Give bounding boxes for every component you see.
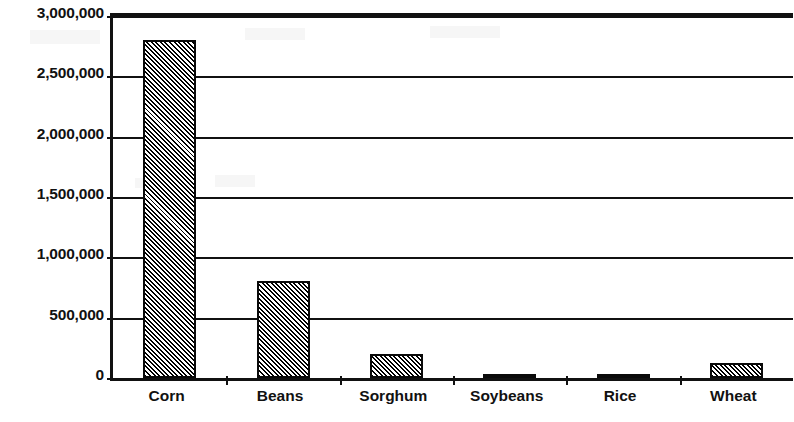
x-axis-tick-label: Rice bbox=[604, 388, 637, 404]
x-axis-tick-label: Soybeans bbox=[470, 388, 543, 404]
bar bbox=[483, 374, 536, 378]
y-axis-tick-label: 2,000,000 bbox=[4, 126, 104, 142]
y-axis-tickmark bbox=[107, 76, 113, 78]
y-axis-tick-labels: 0500,0001,000,0001,500,0002,000,0002,500… bbox=[0, 0, 104, 422]
y-axis-tickmark bbox=[107, 378, 113, 380]
x-axis-tickmark bbox=[226, 376, 228, 385]
gridline bbox=[113, 197, 793, 199]
y-axis-tick-label: 1,500,000 bbox=[4, 186, 104, 202]
gridline bbox=[113, 137, 793, 139]
x-axis-tickmark bbox=[453, 376, 455, 385]
y-axis-tickmark bbox=[107, 257, 113, 259]
x-axis-category-labels: CornBeansSorghumSoybeansRiceWheat bbox=[110, 388, 794, 418]
y-axis-tick-label: 3,000,000 bbox=[4, 5, 104, 21]
y-axis-tick-label: 0 bbox=[4, 367, 104, 383]
gridline bbox=[113, 16, 793, 18]
y-axis-tick-label: 1,000,000 bbox=[4, 247, 104, 263]
gridline bbox=[113, 257, 793, 259]
x-axis-tick-label: Sorghum bbox=[359, 388, 427, 404]
bar bbox=[257, 281, 310, 378]
bar bbox=[143, 40, 196, 378]
y-axis-tickmark bbox=[107, 16, 113, 18]
x-axis-tick-label: Wheat bbox=[710, 388, 757, 404]
x-axis-tick-label: Corn bbox=[149, 388, 185, 404]
x-axis-tick-label: Beans bbox=[257, 388, 304, 404]
gridline bbox=[113, 76, 793, 78]
y-axis-tickmark bbox=[107, 197, 113, 199]
x-axis-tickmark bbox=[680, 376, 682, 385]
bar-chart-figure: 0500,0001,000,0001,500,0002,000,0002,500… bbox=[0, 0, 794, 422]
y-axis-tickmark bbox=[107, 137, 113, 139]
bar bbox=[710, 363, 763, 378]
y-axis-tick-label: 500,000 bbox=[4, 307, 104, 323]
gridline bbox=[113, 318, 793, 320]
bar bbox=[370, 354, 423, 378]
bar bbox=[597, 374, 650, 378]
y-axis-tickmark bbox=[107, 318, 113, 320]
x-axis-tickmark bbox=[340, 376, 342, 385]
x-axis-tickmark bbox=[566, 376, 568, 385]
y-axis-tick-label: 2,500,000 bbox=[4, 66, 104, 82]
plot-area bbox=[110, 13, 793, 381]
